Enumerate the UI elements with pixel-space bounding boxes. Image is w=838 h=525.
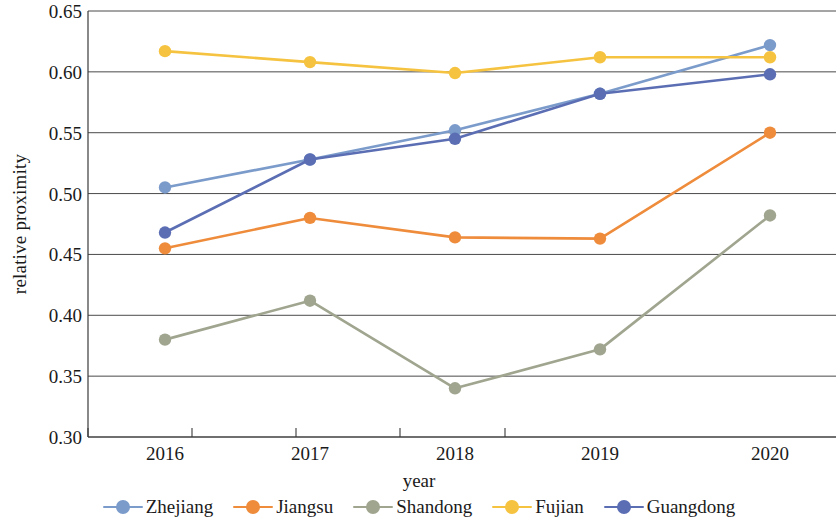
legend-item-zhejiang[interactable]: Zhejiang [103, 497, 214, 516]
data-point [159, 242, 171, 254]
x-axis-title-text: year [403, 470, 436, 491]
x-axis-tick-label: 2018 [395, 444, 515, 463]
series-line [165, 45, 770, 187]
chart-legend: ZhejiangJiangsuShandongFujianGuangdong [0, 497, 838, 516]
data-point [764, 51, 776, 63]
x-axis-tick-label: 2016 [105, 444, 225, 463]
x-axis-title: year [0, 470, 838, 492]
legend-label: Fujian [535, 497, 584, 516]
data-point [449, 231, 461, 243]
data-point [764, 209, 776, 221]
data-point [304, 153, 316, 165]
legend-label: Zhejiang [146, 497, 214, 516]
series-line [165, 74, 770, 232]
legend-label: Shandong [396, 497, 472, 516]
legend-marker-icon [492, 500, 532, 514]
legend-marker-icon [103, 500, 143, 514]
series-jiangsu [159, 127, 776, 255]
data-point [594, 232, 606, 244]
axis-lines [88, 11, 836, 437]
data-point [594, 51, 606, 63]
data-point [159, 45, 171, 57]
series-guangdong [159, 68, 776, 239]
series-fujian [159, 45, 776, 79]
data-point [764, 39, 776, 51]
legend-item-shandong[interactable]: Shandong [353, 497, 472, 516]
data-point [449, 67, 461, 79]
data-point [159, 226, 171, 238]
series-zhejiang [159, 39, 776, 194]
legend-item-jiangsu[interactable]: Jiangsu [233, 497, 333, 516]
data-point [764, 68, 776, 80]
legend-marker-icon [233, 500, 273, 514]
legend-label: Guangdong [647, 497, 736, 516]
data-point [594, 343, 606, 355]
data-series-layer [159, 39, 776, 395]
line-chart-figure: relative proximity 0.650.600.550.500.450… [0, 0, 838, 525]
data-point [304, 294, 316, 306]
x-axis-tick-label: 2017 [250, 444, 370, 463]
plot-area [0, 0, 838, 447]
x-axis-tick-label: 2019 [540, 444, 660, 463]
x-axis-tick-label: 2020 [710, 444, 830, 463]
x-axis-tick-marks [88, 428, 505, 437]
series-line [165, 133, 770, 249]
data-point [159, 181, 171, 193]
legend-marker-icon [353, 500, 393, 514]
data-point [159, 333, 171, 345]
data-point [449, 382, 461, 394]
legend-marker-icon [604, 500, 644, 514]
data-point [304, 212, 316, 224]
series-line [165, 215, 770, 388]
gridlines [88, 11, 836, 437]
legend-item-fujian[interactable]: Fujian [492, 497, 584, 516]
data-point [304, 56, 316, 68]
data-point [594, 88, 606, 100]
legend-item-guangdong[interactable]: Guangdong [604, 497, 736, 516]
data-point [764, 127, 776, 139]
legend-label: Jiangsu [276, 497, 333, 516]
data-point [449, 133, 461, 145]
